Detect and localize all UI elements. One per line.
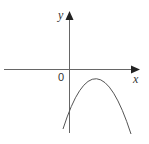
origin-label: 0 [58,71,64,83]
parabola-curve [63,79,131,134]
x-axis-label: x [132,72,139,86]
y-axis-arrow-icon [66,11,74,20]
y-axis-label: y [57,8,64,22]
graph-svg: y 0 x [0,0,149,144]
parabola-diagram: y 0 x [0,0,149,144]
